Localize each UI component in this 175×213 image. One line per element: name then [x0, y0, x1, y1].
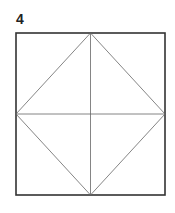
diagram	[0, 0, 175, 213]
